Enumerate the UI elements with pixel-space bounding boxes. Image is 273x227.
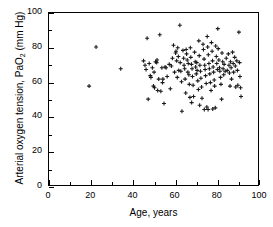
plot-area xyxy=(48,12,259,186)
scatter-point xyxy=(145,36,149,40)
scatter-point xyxy=(188,95,192,99)
scatter-point xyxy=(204,74,208,78)
scatter-point xyxy=(197,54,201,58)
scatter-point xyxy=(204,81,208,85)
scatter-point xyxy=(216,47,220,51)
x-tick-minor xyxy=(239,182,240,185)
x-tick-major xyxy=(176,180,177,185)
scatter-point xyxy=(208,72,212,76)
x-axis-title: Age, years xyxy=(48,207,259,218)
x-tick-major xyxy=(91,180,92,185)
scatter-point xyxy=(205,34,209,38)
scatter-point xyxy=(207,67,211,71)
x-tick-minor xyxy=(112,182,113,185)
scatter-point xyxy=(219,82,223,86)
scatter-point xyxy=(194,65,198,69)
scatter-point xyxy=(180,80,184,84)
scatter-point xyxy=(200,96,204,100)
x-tick-label: 80 xyxy=(202,191,232,200)
scatter-point xyxy=(231,50,235,54)
scatter-point xyxy=(198,103,202,107)
scatter-point xyxy=(203,68,207,72)
scatter-point xyxy=(189,55,193,59)
scatter-point xyxy=(191,83,195,87)
scatter-point xyxy=(228,84,232,88)
scatter-point xyxy=(203,63,207,67)
y-axis-title-pre: Arterial oxygen tension, PaO xyxy=(14,57,25,184)
x-tick-major xyxy=(218,180,219,185)
scatter-point xyxy=(219,75,223,79)
scatter-point xyxy=(238,75,242,79)
scatter-point xyxy=(198,63,202,67)
scatter-point xyxy=(87,84,91,88)
scatter-point xyxy=(165,75,169,79)
scatter-point xyxy=(235,68,239,72)
scatter-point xyxy=(190,67,194,71)
y-tick-major xyxy=(49,152,54,153)
scatter-point xyxy=(220,97,224,101)
x-tick-label: 100 xyxy=(244,191,273,200)
scatter-point xyxy=(222,73,226,77)
scatter-point xyxy=(158,33,162,37)
scatter-point xyxy=(202,108,206,112)
scatter-point xyxy=(185,52,189,56)
scatter-point xyxy=(233,55,237,59)
scatter-point xyxy=(196,79,200,83)
x-tick-label: 40 xyxy=(117,191,147,200)
scatter-point xyxy=(216,27,220,31)
scatter-point xyxy=(182,63,186,67)
scatter-point xyxy=(162,101,166,105)
y-tick-minor xyxy=(49,65,52,66)
y-tick-major xyxy=(49,83,54,84)
scatter-point xyxy=(94,45,98,49)
scatter-point xyxy=(229,66,233,70)
scatter-point xyxy=(232,70,236,74)
scatter-point xyxy=(214,44,218,48)
scatter-point xyxy=(211,65,215,69)
scatter-point xyxy=(201,48,205,52)
scatter-plot-figure: 020406080100 020406080100 Age, years Art… xyxy=(0,0,273,227)
scatter-point xyxy=(206,53,210,57)
scatter-point xyxy=(230,77,234,81)
scatter-point xyxy=(182,56,186,60)
scatter-point xyxy=(201,42,205,46)
scatter-point xyxy=(196,88,200,92)
scatter-point xyxy=(188,46,192,50)
scatter-point xyxy=(187,82,191,86)
scatter-point xyxy=(147,61,151,65)
scatter-point xyxy=(233,64,237,68)
data-points-layer xyxy=(49,13,258,185)
y-tick-minor xyxy=(49,100,52,101)
x-tick-minor xyxy=(70,182,71,185)
x-tick-minor xyxy=(155,182,156,185)
scatter-point xyxy=(206,45,210,49)
y-axis-title: Arterial oxygen tension, PaO2 (mm Hg) xyxy=(14,8,26,188)
y-tick-major xyxy=(49,117,54,118)
scatter-point xyxy=(161,77,165,81)
x-tick-minor xyxy=(197,182,198,185)
scatter-point xyxy=(211,59,215,63)
scatter-point xyxy=(190,101,194,105)
scatter-point xyxy=(146,97,150,101)
y-tick-minor xyxy=(49,170,52,171)
y-tick-major xyxy=(49,13,54,14)
y-tick-minor xyxy=(49,135,52,136)
x-tick-major xyxy=(259,180,260,185)
scatter-point xyxy=(239,95,243,99)
x-tick-label: 60 xyxy=(160,191,190,200)
scatter-point xyxy=(227,71,231,75)
scatter-point xyxy=(183,67,187,71)
scatter-markers xyxy=(49,13,258,185)
scatter-point xyxy=(237,30,241,34)
scatter-point xyxy=(214,55,218,59)
scatter-point xyxy=(175,75,179,79)
x-tick-major xyxy=(49,180,50,185)
y-tick-major xyxy=(49,48,54,49)
scatter-point xyxy=(142,59,146,63)
scatter-point xyxy=(150,66,154,70)
scatter-point xyxy=(221,67,225,71)
scatter-point xyxy=(157,77,161,81)
scatter-point xyxy=(199,76,203,80)
scatter-point xyxy=(215,61,219,65)
scatter-point xyxy=(194,72,198,76)
